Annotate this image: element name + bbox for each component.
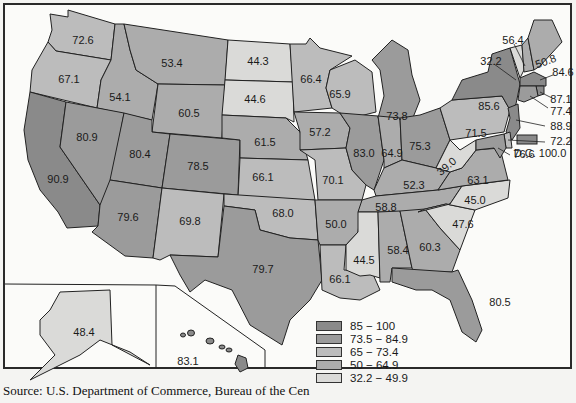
svg-text:65.9: 65.9	[329, 88, 350, 100]
svg-text:80.4: 80.4	[129, 148, 150, 160]
svg-text:66.1: 66.1	[329, 273, 350, 285]
legend-label: 65 − 73.4	[350, 346, 398, 358]
legend-label: 85 − 100	[350, 320, 395, 332]
legend-swatch	[316, 334, 342, 344]
svg-text:70.1: 70.1	[322, 174, 343, 186]
legend-swatch	[316, 347, 342, 357]
legend-item: 65 − 73.4	[316, 345, 408, 358]
svg-text:90.9: 90.9	[47, 173, 68, 185]
svg-text:69.8: 69.8	[179, 215, 200, 227]
legend-swatch	[316, 321, 342, 331]
legend-label: 73.5 − 84.9	[350, 333, 408, 345]
legend-item: 32.2 − 49.9	[316, 371, 408, 384]
svg-text:79.7: 79.7	[252, 263, 273, 275]
svg-text:D.C. 100.0: D.C. 100.0	[514, 147, 567, 159]
svg-text:83.1: 83.1	[177, 355, 198, 367]
svg-text:68.0: 68.0	[272, 207, 293, 219]
svg-text:84.6: 84.6	[552, 66, 573, 78]
svg-text:85.6: 85.6	[478, 100, 499, 112]
svg-text:71.5: 71.5	[465, 127, 486, 139]
svg-text:52.3: 52.3	[403, 179, 424, 191]
legend-label: 50 − 64.9	[350, 359, 398, 371]
svg-text:44.6: 44.6	[244, 93, 265, 105]
svg-text:83.0: 83.0	[353, 147, 374, 159]
legend-item: 50 − 64.9	[316, 358, 408, 371]
legend-label: 32.2 − 49.9	[350, 372, 408, 384]
state-MI	[372, 40, 420, 120]
svg-text:64.9: 64.9	[381, 147, 402, 159]
svg-text:32.2: 32.2	[480, 55, 501, 67]
svg-text:72.6: 72.6	[72, 34, 93, 46]
svg-text:50.0: 50.0	[325, 218, 346, 230]
svg-text:58.4: 58.4	[387, 244, 408, 256]
leader-ct	[530, 96, 548, 108]
svg-text:80.9: 80.9	[76, 131, 97, 143]
legend-swatch	[316, 360, 342, 370]
svg-text:47.6: 47.6	[452, 218, 473, 230]
svg-text:67.1: 67.1	[58, 73, 79, 85]
svg-text:57.2: 57.2	[309, 126, 330, 138]
us-choropleth-map: 72.6 67.1 90.9 54.1 80.9 53.4 60.5 80.4 …	[0, 0, 576, 403]
source-caption: Source: U.S. Department of Commerce, Bur…	[3, 383, 310, 399]
svg-text:60.3: 60.3	[419, 241, 440, 253]
dc-label: D.C. 100.0	[514, 147, 567, 159]
legend-swatch	[316, 373, 342, 383]
legend-item: 85 − 100	[316, 319, 408, 332]
svg-text:78.5: 78.5	[187, 160, 208, 172]
svg-text:63.1: 63.1	[467, 174, 488, 186]
svg-text:61.5: 61.5	[254, 136, 275, 148]
svg-text:58.8: 58.8	[375, 201, 396, 213]
svg-text:87.1: 87.1	[550, 93, 571, 105]
legend-item: 73.5 − 84.9	[316, 332, 408, 345]
svg-text:80.5: 80.5	[489, 296, 510, 308]
svg-text:44.5: 44.5	[353, 254, 374, 266]
svg-text:60.5: 60.5	[178, 107, 199, 119]
state-KS	[238, 158, 315, 200]
svg-text:88.9: 88.9	[550, 120, 571, 132]
svg-text:48.4: 48.4	[73, 326, 94, 338]
svg-text:54.1: 54.1	[109, 91, 130, 103]
svg-text:53.4: 53.4	[161, 57, 182, 69]
svg-text:79.6: 79.6	[117, 211, 138, 223]
svg-text:66.4: 66.4	[300, 73, 321, 85]
svg-text:77.4: 77.4	[550, 105, 571, 117]
map-legend: 85 − 100 73.5 − 84.9 65 − 73.4 50 − 64.9…	[316, 319, 408, 384]
dc-swatch	[517, 135, 537, 144]
svg-text:56.4: 56.4	[502, 34, 523, 46]
leader-nj	[516, 120, 545, 126]
svg-text:44.3: 44.3	[247, 55, 268, 67]
svg-text:72.2: 72.2	[550, 135, 571, 147]
svg-text:73.8: 73.8	[386, 110, 407, 122]
svg-text:75.3: 75.3	[409, 140, 430, 152]
svg-text:45.0: 45.0	[464, 194, 485, 206]
svg-text:66.1: 66.1	[252, 171, 273, 183]
